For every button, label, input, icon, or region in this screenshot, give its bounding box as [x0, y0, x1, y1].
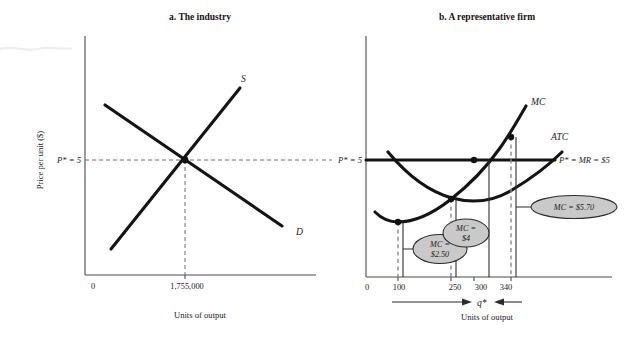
equilibrium-point — [182, 157, 189, 164]
supply-curve-label: S — [241, 73, 246, 84]
mc-point-100 — [395, 219, 401, 225]
panel-industry: a. The industry S D P* = 5 0 1,755,000 — [35, 12, 318, 320]
callout-100-line2: $2.50 — [431, 250, 449, 259]
panel-firm: b. A representative firm — [322, 12, 617, 322]
panel-b-x-axis-title: Units of output — [461, 312, 514, 322]
panel-a-price-tick-label: P* = 5 — [56, 155, 82, 165]
callout-250-line2: $4 — [462, 234, 470, 243]
callout-mc-5-70: MC = $5.70 — [516, 196, 617, 219]
mc-point-250 — [448, 196, 454, 202]
panel-a-y-axis-title: Price per unit ($) — [35, 131, 45, 190]
demand-curve-label: D — [295, 226, 303, 237]
callout-250-line1: MC = — [455, 224, 476, 233]
panel-b-title: b. A representative firm — [439, 12, 535, 22]
q-star-annotation: q* — [392, 297, 522, 308]
callout-340-line1: MC = $5.70 — [553, 203, 594, 212]
supply-curve — [111, 88, 240, 249]
page-artifact — [0, 48, 72, 50]
mc-curve-label: MC — [530, 96, 546, 107]
panel-a-origin-label: 0 — [91, 282, 95, 291]
demand-curve — [105, 105, 282, 226]
panel-b-origin-label: 0 — [365, 283, 369, 292]
atc-curve-label: ATC — [550, 131, 569, 142]
panel-b-x-label-300: 300 — [475, 283, 488, 292]
panel-a-title: a. The industry — [169, 12, 231, 22]
mc-point-340 — [508, 134, 514, 140]
panel-b-price-tick-label: P* = 5 — [337, 155, 363, 165]
q-star-label: q* — [477, 297, 487, 308]
q-star-arrowhead-right — [494, 298, 504, 305]
mr-line-label: P* = MR = $5 — [558, 155, 610, 165]
figure-canvas: a. The industry S D P* = 5 0 1,755,000 — [0, 0, 637, 343]
panel-b-x-label-340: 340 — [500, 283, 513, 292]
panel-a-x-tick-label: 1,755,000 — [170, 282, 204, 291]
panel-a-x-axis-title: Units of output — [174, 310, 227, 320]
callout-mc-4: MC = $4 — [443, 219, 489, 247]
economics-figure: a. The industry S D P* = 5 0 1,755,000 — [0, 0, 637, 343]
panel-b-x-label-100: 100 — [393, 283, 406, 292]
q-star-arrowhead-left — [462, 298, 472, 305]
mc-point-300 — [471, 157, 477, 163]
panel-b-x-label-250: 250 — [449, 283, 462, 292]
